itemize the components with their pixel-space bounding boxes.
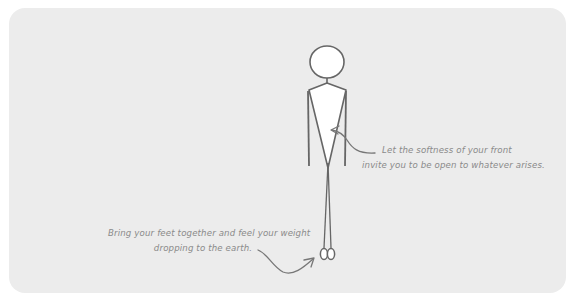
right-arm	[345, 91, 346, 166]
head-shape	[310, 46, 344, 78]
left-foot	[320, 249, 327, 260]
right-foot	[327, 249, 334, 260]
right-leg	[328, 163, 331, 248]
feet-caption-line-2: dropping to the earth.	[108, 241, 298, 256]
feet-caption-line-1: Bring your feet together and feel your w…	[108, 226, 298, 241]
feet-caption: Bring your feet together and feel your w…	[108, 226, 298, 256]
left-arm	[308, 91, 309, 166]
left-leg	[324, 163, 328, 248]
front-caption-line-2: invite you to be open to whatever arises…	[362, 158, 532, 173]
front-caption: Let the softness of your front invite yo…	[362, 143, 532, 173]
torso-shape	[309, 83, 346, 168]
front-caption-line-1: Let the softness of your front	[362, 143, 532, 158]
